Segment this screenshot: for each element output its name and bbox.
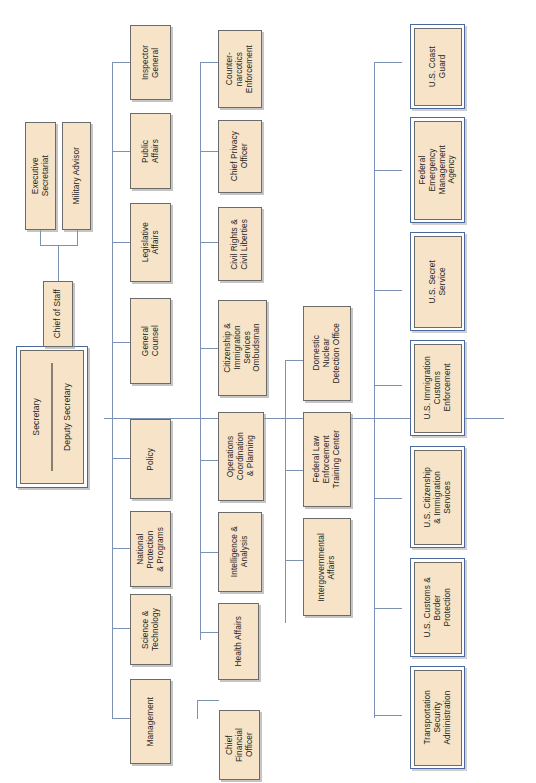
- office-general-counsel-box[interactable]: General Counsel: [130, 298, 171, 384]
- secretary-label: Secretary: [31, 398, 41, 436]
- office-inspector-general-box[interactable]: Inspector General: [130, 25, 171, 100]
- connector-branch-uscis: [374, 498, 402, 499]
- office-federal-law-enforcement-training-center-box[interactable]: Federal Law Enforcement Training Center: [303, 412, 351, 507]
- connector-col2-lower-bus: [200, 418, 201, 640]
- connector-branch-intergovernmental-affairs: [285, 560, 303, 561]
- org-chart-canvas: Secretary Deputy Secretary Executive Sec…: [0, 0, 536, 783]
- connector-branch-chief-privacy-officer: [200, 151, 218, 152]
- connector-military-advisor-stem: [77, 230, 78, 246]
- connector-col1-lower-bus: [112, 418, 113, 718]
- office-chief-privacy-officer-box[interactable]: Chief Privacy Officer: [218, 120, 262, 193]
- component-us-customs-border-protection-box[interactable]: U.S. Customs & Border Protection: [410, 558, 465, 657]
- connector-branch-management: [112, 718, 130, 719]
- executive-secretariat-box[interactable]: Executive Secretariat: [25, 122, 56, 230]
- component-transportation-security-administration-box[interactable]: Transportation Security Administration: [410, 666, 465, 769]
- military-advisor-label: Military Advisor: [72, 147, 82, 204]
- component-us-citizenship-immigration-services-box[interactable]: U.S. Citizenship & Immigration Services: [410, 446, 465, 548]
- connector-branch-operations-coordination: [200, 460, 218, 461]
- office-inspector-general-label: Inspector General: [141, 45, 161, 80]
- office-policy-label: Policy: [146, 448, 156, 471]
- connector-branch-policy: [112, 458, 130, 459]
- component-us-coast-guard-box[interactable]: U.S. Coast Guard: [410, 24, 465, 109]
- connector-branch-national-protection: [112, 548, 130, 549]
- office-chief-privacy-officer-label: Chief Privacy Officer: [230, 131, 250, 181]
- office-domestic-nuclear-detection-office-box[interactable]: Domestic Nuclear Detection Office: [303, 306, 351, 401]
- connector-branch-public-affairs: [112, 151, 130, 152]
- connector-branch-inspector-general: [112, 62, 130, 63]
- connector-cfo-stem: [197, 700, 219, 701]
- connector-col1-upper-bus: [112, 62, 113, 419]
- office-science-technology-label: Science & Technology: [141, 608, 161, 651]
- component-transportation-security-administration-label: Transportation Security Administration: [423, 690, 452, 745]
- office-domestic-nuclear-detection-office-label: Domestic Nuclear Detection Office: [312, 323, 341, 383]
- component-us-citizenship-immigration-services-label: U.S. Citizenship & Immigration Services: [423, 467, 452, 528]
- office-chief-financial-officer-label: Chief Financial Officer: [225, 728, 254, 762]
- office-legislative-affairs-box[interactable]: Legislative Affairs: [130, 203, 171, 282]
- office-national-protection-programs-box[interactable]: National Protection & Programs: [130, 511, 171, 587]
- office-health-affairs-label: Health Affairs: [234, 616, 244, 667]
- office-health-affairs-box[interactable]: Health Affairs: [218, 603, 259, 680]
- office-general-counsel-label: General Counsel: [141, 325, 161, 356]
- office-science-technology-box[interactable]: Science & Technology: [130, 594, 171, 665]
- office-management-box[interactable]: Management: [130, 679, 171, 764]
- connector-branch-cbp: [374, 608, 402, 609]
- office-civil-rights-civil-liberties-box[interactable]: Civil Rights & Civil Liberties: [218, 207, 262, 281]
- connector-branch-ice: [374, 385, 402, 386]
- connector-branch-coast-guard: [374, 62, 402, 63]
- connector-chief-of-staff-up: [58, 245, 59, 281]
- connector-branch-health-affairs: [200, 632, 218, 633]
- component-us-immigration-customs-enforcement-label: U.S. Immigration Customs Enforcement: [423, 356, 452, 419]
- office-operations-coordination-planning-label: Operations Coordination & Planning: [226, 432, 255, 480]
- connector-components-lower-bus: [374, 418, 375, 718]
- chief-of-staff-label: Chief of Staff: [53, 289, 63, 338]
- office-intergovernmental-affairs-box[interactable]: Intergovernmental Affairs: [303, 518, 351, 616]
- office-intelligence-analysis-label: Intelligence & Analysis: [230, 526, 250, 577]
- connector-col3-upper-bus: [285, 360, 286, 419]
- connector-branch-domestic-nuclear: [285, 360, 303, 361]
- executive-secretariat-label: Executive Secretariat: [31, 155, 51, 196]
- connector-branch-fletc: [285, 470, 303, 471]
- office-management-label: Management: [146, 697, 156, 746]
- office-cis-ombudsman-box[interactable]: Citizenship & Immigration Services Ombud…: [218, 300, 267, 396]
- deputy-secretary-label: Deputy Secretary: [62, 383, 72, 451]
- office-public-affairs-box[interactable]: Public Affairs: [130, 113, 171, 189]
- connector-branch-cis-ombudsman: [200, 348, 218, 349]
- connector-col3-lower-bus: [285, 418, 286, 623]
- military-advisor-box[interactable]: Military Advisor: [62, 122, 91, 230]
- connector-staff-bus: [40, 245, 77, 246]
- connector-branch-legislative-affairs: [112, 242, 130, 243]
- connector-management-to-cfo: [197, 700, 198, 719]
- office-policy-box[interactable]: Policy: [130, 419, 171, 499]
- secretary-box[interactable]: Secretary Deputy Secretary: [16, 346, 88, 488]
- office-counternarcotics-enforcement-box[interactable]: Counter- narcotics Enforcement: [218, 30, 262, 108]
- connector-branch-science-technology: [112, 628, 130, 629]
- chief-of-staff-box[interactable]: Chief of Staff: [43, 281, 73, 347]
- connector-branch-tsa: [374, 715, 402, 716]
- connector-branch-counternarcotics: [200, 62, 218, 63]
- connector-branch-general-counsel: [112, 342, 130, 343]
- connector-exec-secretariat-stem: [40, 230, 41, 246]
- office-legislative-affairs-label: Legislative Affairs: [141, 222, 161, 262]
- office-civil-rights-civil-liberties-label: Civil Rights & Civil Liberties: [230, 219, 250, 270]
- office-chief-financial-officer-box[interactable]: Chief Financial Officer: [219, 710, 260, 780]
- connector-components-upper-bus: [374, 62, 375, 419]
- office-intergovernmental-affairs-label: Intergovernmental Affairs: [317, 533, 337, 602]
- connector-branch-intelligence-analysis: [200, 552, 218, 553]
- office-counternarcotics-enforcement-label: Counter- narcotics Enforcement: [225, 45, 254, 93]
- component-federal-emergency-management-agency-box[interactable]: Federal Emergency Management Agency: [410, 117, 465, 223]
- connector-branch-secret-service: [374, 290, 402, 291]
- component-us-secret-service-box[interactable]: U.S. Secret Service: [410, 232, 465, 331]
- office-federal-law-enforcement-training-center-label: Federal Law Enforcement Training Center: [312, 430, 341, 488]
- office-cis-ombudsman-label: Citizenship & Immigration Services Ombud…: [223, 323, 262, 373]
- office-intelligence-analysis-box[interactable]: Intelligence & Analysis: [218, 512, 262, 592]
- component-us-customs-border-protection-label: U.S. Customs & Border Protection: [423, 577, 452, 637]
- component-us-immigration-customs-enforcement-box[interactable]: U.S. Immigration Customs Enforcement: [410, 340, 465, 436]
- office-operations-coordination-planning-box[interactable]: Operations Coordination & Planning: [218, 412, 264, 501]
- component-us-coast-guard-label: U.S. Coast Guard: [428, 46, 448, 87]
- component-federal-emergency-management-agency-label: Federal Emergency Management Agency: [418, 145, 457, 194]
- connector-branch-fema: [374, 170, 402, 171]
- connector-branch-civil-rights: [200, 242, 218, 243]
- office-national-protection-programs-label: National Protection & Programs: [136, 527, 165, 572]
- figure-caption: FIGURE 4–1 Current DHS organizational ch…: [523, 775, 534, 783]
- component-us-secret-service-label: U.S. Secret Service: [428, 260, 448, 304]
